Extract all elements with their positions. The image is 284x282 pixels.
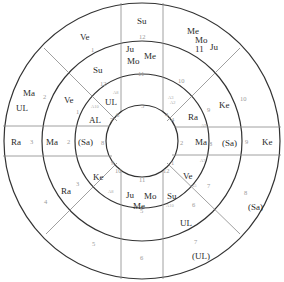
- middle-top-right-num: 9: [207, 106, 210, 113]
- inner-right-sub: A7: [200, 158, 206, 163]
- outer-right-upper-num: 10: [240, 95, 247, 102]
- inner-top-right-upper-sub2: A2: [170, 100, 176, 105]
- middle-left-num: 2: [67, 138, 70, 145]
- middle-top-planet-1: Ju: [126, 44, 135, 54]
- divider-line: [46, 163, 117, 234]
- middle-bottom-left-planet: Ra: [61, 186, 71, 196]
- middle-top-planet-2: Mo: [127, 56, 140, 66]
- inner-top-right-lower-sub: A9: [201, 123, 207, 128]
- inner-num-11: 11: [139, 176, 145, 183]
- middle-top-left-planet: Su: [93, 65, 103, 75]
- inner-bottom-right-lower-planet: Su: [167, 191, 177, 201]
- middle-left-upper-planet: Ve: [64, 95, 74, 105]
- middle-top-right-planet: Ke: [219, 100, 230, 110]
- outer-top-right-planet-4: 11: [195, 44, 204, 54]
- inner-bottom-left-sub: A8: [108, 189, 114, 194]
- middle-right-lower-num: 7: [207, 182, 211, 189]
- inner-right-planet: Ma: [195, 137, 207, 147]
- inner-bottom-planet-3: Me: [133, 201, 145, 211]
- outer-right-planet: Ke: [262, 137, 273, 147]
- divider-line: [167, 163, 240, 234]
- outer-bottom-right-num: 8: [244, 189, 247, 196]
- outer-top-right-planet-3: Ju: [210, 42, 219, 52]
- outer-top-num: 12: [139, 33, 146, 40]
- inner-num-10: 10: [115, 167, 122, 174]
- outer-left-upper-planet-1: Ma: [23, 88, 35, 98]
- middle-right-num: 8: [209, 140, 212, 147]
- inner-num-9: 9: [111, 159, 114, 166]
- inner-top-left-upper-planet: UL: [105, 97, 117, 107]
- inner-num-2: 2: [180, 139, 183, 146]
- inner-num-8: 8: [101, 139, 104, 146]
- chart-wheel: Su 12 Me Mo Ju 11 10 Ke 9 (Sa) 8 (UL) 7 …: [0, 0, 284, 282]
- middle-bottom-right-num: 6: [192, 201, 196, 208]
- inner-top-left-upper-sub: A8: [113, 90, 119, 95]
- outer-bottom-left-num: 5: [92, 240, 95, 247]
- outer-right-num: 9: [245, 138, 248, 145]
- inner-top-left-lower-sub: A10: [91, 104, 99, 109]
- outer-bottom-right-lower-planet: (UL): [192, 251, 210, 261]
- middle-bottom-right-planet: UL: [180, 218, 192, 228]
- middle-left-upper-num: 1: [76, 108, 79, 115]
- inner-num-12: 12: [163, 167, 170, 174]
- outer-left-lower-num: 4: [44, 198, 48, 205]
- inner-bottom-right-lower-sub: A10: [166, 203, 174, 208]
- outer-left-upper-planet-2: UL: [16, 103, 28, 113]
- middle-top-right-upper-num: 10: [178, 77, 185, 84]
- middle-top-num: 11: [138, 70, 144, 77]
- inner-bottom-left-planet: Ke: [93, 172, 104, 182]
- inner-num-5: 5: [141, 102, 144, 109]
- astrology-chart: Su 12 Me Mo Ju 11 10 Ke 9 (Sa) 8 (UL) 7 …: [0, 0, 284, 282]
- outer-top-left-planet: Ve: [80, 32, 90, 42]
- middle-bottom-left-num: 3: [76, 180, 79, 187]
- middle-right-planet: (Sa): [222, 138, 237, 148]
- outer-left-planet: Ra: [11, 137, 21, 147]
- inner-bottom-planet-1: Ju: [126, 190, 135, 200]
- inner-top-left-lower-planet: AL: [89, 115, 101, 125]
- middle-top-left-num: 12: [100, 80, 107, 87]
- middle-top-planet-3: Me: [144, 51, 156, 61]
- outer-bottom-right-lower-num: 7: [194, 238, 198, 245]
- inner-top-right-lower-planet: Ra: [188, 112, 198, 122]
- outer-left-num: 3: [30, 138, 33, 145]
- inner-num-4b: 4: [171, 116, 175, 123]
- outer-top-left-num: 1: [91, 46, 94, 53]
- inner-left-planet: (Sa): [78, 137, 93, 147]
- inner-bottom-planet-2: Mo: [144, 191, 157, 201]
- inner-bottom-right-upper-sub: A5: [191, 183, 197, 188]
- outer-top-planet: Su: [137, 16, 147, 26]
- outer-bottom-right-planet: (Sa): [248, 202, 263, 212]
- inner-num-1: 1: [171, 159, 174, 166]
- outer-bottom-num: 6: [140, 254, 144, 261]
- outer-left-upper-num: 2: [43, 93, 46, 100]
- inner-bottom-right-upper-planet: Ve: [183, 171, 193, 181]
- middle-left-planet: Ma: [46, 137, 58, 147]
